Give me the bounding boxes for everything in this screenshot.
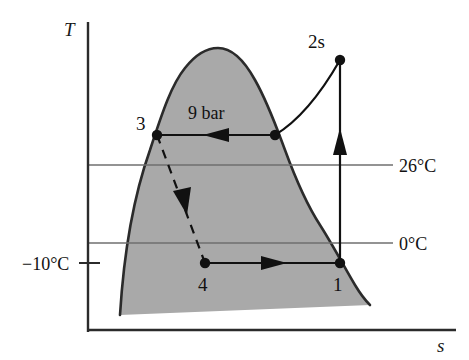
state-2s-label: 2s — [308, 31, 325, 52]
process-desuperheat-2s-satvapor — [275, 60, 340, 135]
state-3-dot — [152, 130, 162, 140]
pressure-label-9bar: 9 bar — [188, 103, 224, 123]
isotherm-0c-label: 0°C — [399, 234, 427, 254]
state-2s-dot — [335, 55, 345, 65]
compression-arrowhead-up — [333, 128, 347, 155]
state-4-dot — [200, 258, 210, 268]
state-1-label: 1 — [333, 274, 343, 295]
ts-diagram-figure: 26°C 0°C −10°C T s — [0, 0, 469, 360]
x-axis-label: s — [437, 335, 444, 356]
state-4-label: 4 — [198, 274, 208, 295]
state-point-2s: 2s — [308, 31, 345, 65]
state-point-saturated-vapor — [270, 130, 280, 140]
saturated-vapor-dot — [270, 130, 280, 140]
ts-diagram-canvas: 26°C 0°C −10°C T s — [0, 0, 469, 360]
process-compression-1-2s — [333, 60, 347, 263]
state-1-dot — [335, 258, 345, 268]
isotherm-26c-label: 26°C — [399, 156, 436, 176]
desuperheat-curve — [275, 60, 340, 135]
y-axis-label: T — [64, 19, 76, 40]
isotherm-minus10c-label: −10°C — [22, 254, 69, 274]
state-3-label: 3 — [136, 113, 146, 134]
